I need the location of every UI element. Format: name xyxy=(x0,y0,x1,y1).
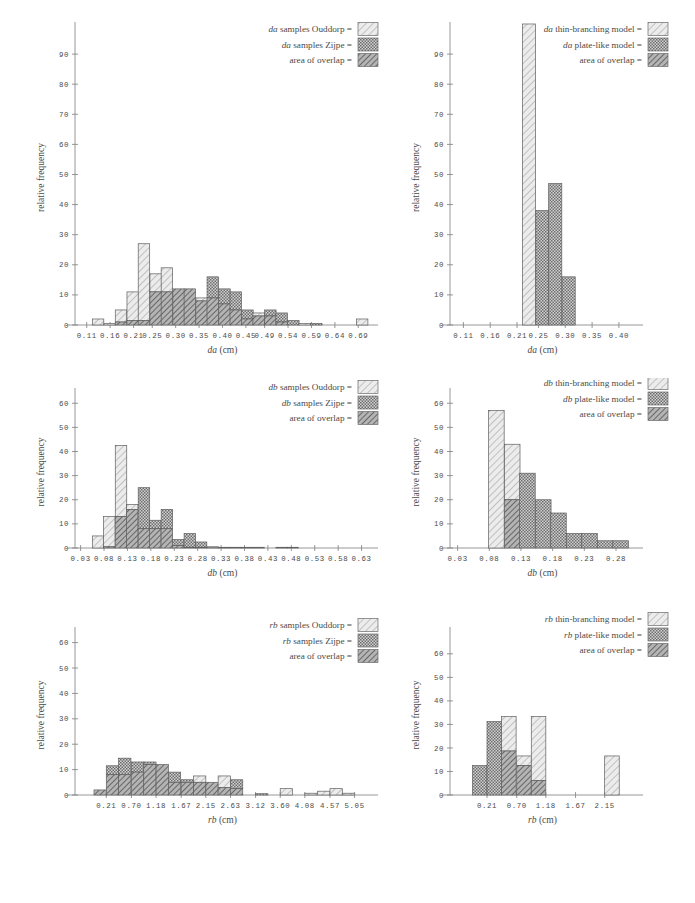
legend-label: db samples Zijpe = xyxy=(282,398,352,408)
legend-label: db thin-branching model = xyxy=(544,378,642,388)
x-tick-label: 2.63 xyxy=(220,802,240,810)
bar xyxy=(115,445,126,516)
x-tick-label: 0.13 xyxy=(511,555,531,563)
y-tick-label: 20 xyxy=(59,261,69,269)
bar xyxy=(489,410,505,548)
y-tick-label: 40 xyxy=(59,201,69,209)
bar xyxy=(184,534,195,548)
bar-overlap xyxy=(172,546,183,548)
x-tick-label: 0.35 xyxy=(582,332,602,340)
bar xyxy=(517,756,532,766)
bars xyxy=(92,445,298,548)
legend: da samples Ouddorp =da samples Zijpe =ar… xyxy=(268,23,378,67)
y-axis: 0102030405060 xyxy=(59,388,78,553)
bar xyxy=(161,268,172,292)
legend-label: da thin-branching model = xyxy=(544,24,642,34)
y-tick-label: 40 xyxy=(434,448,444,456)
y-tick-label: 10 xyxy=(59,291,69,299)
panel-db-samples: 0102030405060relative frequency0.030.080… xyxy=(0,378,400,603)
y-tick-label: 20 xyxy=(434,496,444,504)
bar-overlap xyxy=(131,772,143,795)
y-axis: 0102030405060708090 xyxy=(434,22,453,330)
x-tick-label: 0.16 xyxy=(480,332,500,340)
bar xyxy=(207,547,218,548)
y-axis: 0102030405060708090 xyxy=(59,22,78,330)
y-tick-label: 20 xyxy=(434,261,444,269)
legend-swatch xyxy=(358,396,378,409)
y-tick-label: 50 xyxy=(59,171,69,179)
bars xyxy=(522,24,575,325)
y-tick-label: 80 xyxy=(434,81,444,89)
legend: db thin-branching model =db plate-like m… xyxy=(544,378,668,421)
y-tick-label: 50 xyxy=(59,424,69,432)
x-tick-label: 0.38 xyxy=(234,555,254,563)
bar xyxy=(241,547,252,548)
bar xyxy=(115,310,126,322)
x-tick-label: 0.59 xyxy=(301,332,321,340)
bar-overlap xyxy=(276,322,287,325)
bar-overlap xyxy=(181,782,193,795)
x-tick-label: 0.43 xyxy=(258,555,278,563)
bar xyxy=(330,789,342,795)
bar xyxy=(196,298,207,301)
x-tick-label: 3.12 xyxy=(246,802,266,810)
bar xyxy=(207,277,218,298)
legend-label: area of overlap = xyxy=(289,651,352,661)
legend-label: db samples Ouddorp = xyxy=(268,382,352,392)
x-tick-label: 0.69 xyxy=(348,332,368,340)
x-tick-label: 0.25 xyxy=(528,332,548,340)
x-tick-label: 0.45 xyxy=(236,332,256,340)
legend-swatch xyxy=(358,381,378,394)
y-axis-title: relative frequency xyxy=(36,680,46,749)
bar-overlap xyxy=(184,289,195,325)
y-tick-label: 40 xyxy=(434,697,444,705)
legend-label: rb plate-like model = xyxy=(564,630,642,640)
x-tick-label: 0.21 xyxy=(507,332,527,340)
x-tick-label: 4.57 xyxy=(320,802,340,810)
panel-da-models: 0102030405060708090relative frequency0.1… xyxy=(395,0,695,380)
bar xyxy=(504,444,520,499)
bar xyxy=(181,780,193,783)
y-tick-label: 10 xyxy=(434,291,444,299)
legend-swatch xyxy=(648,54,668,67)
y-tick-label: 50 xyxy=(434,674,444,682)
x-tick-label: 0.48 xyxy=(281,555,301,563)
bar xyxy=(520,473,536,548)
y-tick-label: 0 xyxy=(64,792,69,800)
bar-overlap xyxy=(218,547,229,548)
bar xyxy=(230,547,241,548)
y-tick-label: 70 xyxy=(434,111,444,119)
bar xyxy=(92,319,103,325)
legend-label: rb samples Zijpe = xyxy=(283,636,352,646)
y-tick-label: 30 xyxy=(59,472,69,480)
bar xyxy=(218,776,230,787)
x-axis-title: da (cm) xyxy=(528,345,558,356)
y-tick-label: 30 xyxy=(59,231,69,239)
x-tick-label: 0.54 xyxy=(278,332,298,340)
y-axis-title: relative frequency xyxy=(411,680,421,749)
y-tick-label: 10 xyxy=(59,766,69,774)
bar xyxy=(265,310,276,316)
bar xyxy=(582,534,598,548)
y-tick-label: 30 xyxy=(434,231,444,239)
bar xyxy=(472,766,487,795)
x-tick-label: 0.03 xyxy=(448,555,468,563)
legend-swatch xyxy=(358,23,378,36)
bar xyxy=(522,24,535,325)
y-tick-label: 0 xyxy=(64,545,69,553)
legend-swatch xyxy=(648,378,668,390)
y-tick-label: 60 xyxy=(59,400,69,408)
bars xyxy=(94,758,355,795)
panel-da-samples: 0102030405060708090relative frequency0.1… xyxy=(0,0,400,380)
bar-overlap xyxy=(150,292,161,325)
bar xyxy=(161,509,172,528)
bar-overlap xyxy=(144,765,156,795)
legend-swatch xyxy=(648,408,668,421)
bar xyxy=(287,547,298,548)
y-tick-label: 40 xyxy=(59,690,69,698)
x-axis-title: da (cm) xyxy=(208,345,238,356)
x-tick-label: 0.13 xyxy=(117,555,137,563)
x-tick-label: 0.33 xyxy=(211,555,231,563)
legend-swatch xyxy=(648,628,668,641)
bar-overlap xyxy=(106,775,118,795)
